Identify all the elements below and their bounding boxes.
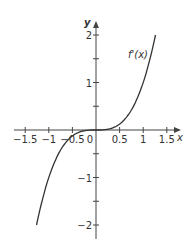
y-axis-label: y xyxy=(84,17,91,28)
x-axis-label: x xyxy=(176,132,183,143)
chart: −1.5−1−0.500.511.5 21−1−2 x y f'(x) xyxy=(0,0,191,248)
x-tick-label: 1.5 xyxy=(159,134,175,145)
y-tick-label: −1 xyxy=(77,173,92,184)
x-tick-label: 1 xyxy=(140,134,146,145)
y-tick-label: 1 xyxy=(86,78,92,89)
x-tick-label: −1 xyxy=(41,134,56,145)
y-tick-label: −2 xyxy=(77,220,92,231)
y-axis-arrow-icon xyxy=(93,21,99,28)
x-tick-label: −1.5 xyxy=(13,134,37,145)
y-tick-label: 2 xyxy=(86,30,92,41)
series-label: f'(x) xyxy=(128,49,148,60)
x-tick-label: 0 xyxy=(87,134,93,145)
x-tick-label: 0.5 xyxy=(112,134,128,145)
